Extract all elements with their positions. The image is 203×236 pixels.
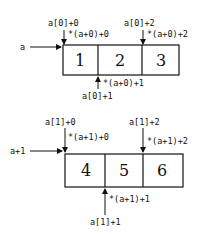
cell-value: 6 bbox=[157, 161, 167, 180]
label-a0-plus2: a[0]+2 bbox=[124, 18, 155, 28]
cell-value: 1 bbox=[75, 51, 85, 70]
label-a1-plus2: a[1]+2 bbox=[129, 117, 160, 127]
label-deref-a0-0: *(a+0)+0 bbox=[68, 29, 109, 39]
cell-value: 4 bbox=[81, 161, 91, 180]
array-row-0: a[0]+0 *(a+0)+0 a[0]+2 *(a+0)+2 a 1 2 3 … bbox=[20, 18, 188, 101]
cell-value: 5 bbox=[119, 161, 129, 180]
label-a0-plus1: a[0]+1 bbox=[82, 91, 113, 101]
pointer-label-a: a bbox=[20, 42, 25, 52]
label-a0-plus0: a[0]+0 bbox=[48, 18, 79, 28]
cell-value: 3 bbox=[156, 51, 166, 70]
label-deref-a1-0: *(a+1)+0 bbox=[68, 132, 109, 142]
label-deref-a0-2: *(a+0)+2 bbox=[147, 29, 188, 39]
label-a1-plus0: a[1]+0 bbox=[45, 117, 76, 127]
array-row-1: a[1]+0 *(a+1)+0 a[1]+2 *(a+1)+2 a+1 4 5 … bbox=[10, 117, 188, 227]
pointer-label-a-plus-1: a+1 bbox=[10, 146, 25, 156]
label-a1-plus1: a[1]+1 bbox=[90, 217, 121, 227]
pointer-diagram: a[0]+0 *(a+0)+0 a[0]+2 *(a+0)+2 a 1 2 3 … bbox=[0, 0, 203, 236]
cell-value: 2 bbox=[115, 51, 125, 70]
label-deref-a1-2: *(a+1)+2 bbox=[147, 136, 188, 146]
label-deref-a1-1: *(a+1)+1 bbox=[109, 194, 150, 204]
label-deref-a0-1: *(a+0)+1 bbox=[103, 78, 144, 88]
